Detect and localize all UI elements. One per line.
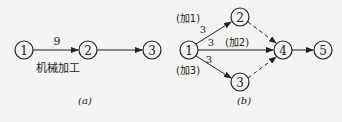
diagram-a: 1 2 3 9 机械加工 (a) xyxy=(15,35,161,106)
svg-text:4: 4 xyxy=(279,44,287,58)
edge-duration-1-2: 3 xyxy=(200,24,206,35)
node-5: 5 xyxy=(314,41,332,59)
diagram-b: 1 2 3 4 5 (加1) 3 3 (加2) 3 (加3) (b) xyxy=(176,8,332,106)
node-1: 1 xyxy=(15,41,33,59)
network-diagrams: 1 2 3 9 机械加工 (a) 1 2 3 xyxy=(0,0,342,122)
caption-b: (b) xyxy=(237,95,251,106)
task-label: 机械加工 xyxy=(36,61,80,75)
edge-name-1-4: (加2) xyxy=(225,37,249,48)
node-3: 3 xyxy=(231,73,249,91)
svg-text:1: 1 xyxy=(185,44,193,58)
node-2: 2 xyxy=(231,8,249,26)
node-1: 1 xyxy=(180,41,198,59)
node-4: 4 xyxy=(274,41,292,59)
caption-a: (a) xyxy=(78,95,92,106)
svg-text:5: 5 xyxy=(319,44,327,58)
edge-name-1-3: (加3) xyxy=(176,65,200,76)
svg-text:2: 2 xyxy=(236,11,244,25)
edge-3-4-dummy xyxy=(248,57,276,78)
node-3: 3 xyxy=(143,41,161,59)
edge-2-4-dummy xyxy=(248,22,276,43)
edge-name-1-2: (加1) xyxy=(176,13,200,24)
node-2: 2 xyxy=(79,41,97,59)
edge-duration-1-4: 3 xyxy=(208,37,214,48)
svg-text:3: 3 xyxy=(236,76,244,90)
svg-text:1: 1 xyxy=(20,44,28,58)
edge-1-3 xyxy=(196,56,231,78)
svg-text:2: 2 xyxy=(84,44,92,58)
edge-duration-1-3: 3 xyxy=(206,54,212,65)
edge-duration-label: 9 xyxy=(54,35,61,48)
svg-text:3: 3 xyxy=(148,44,156,58)
